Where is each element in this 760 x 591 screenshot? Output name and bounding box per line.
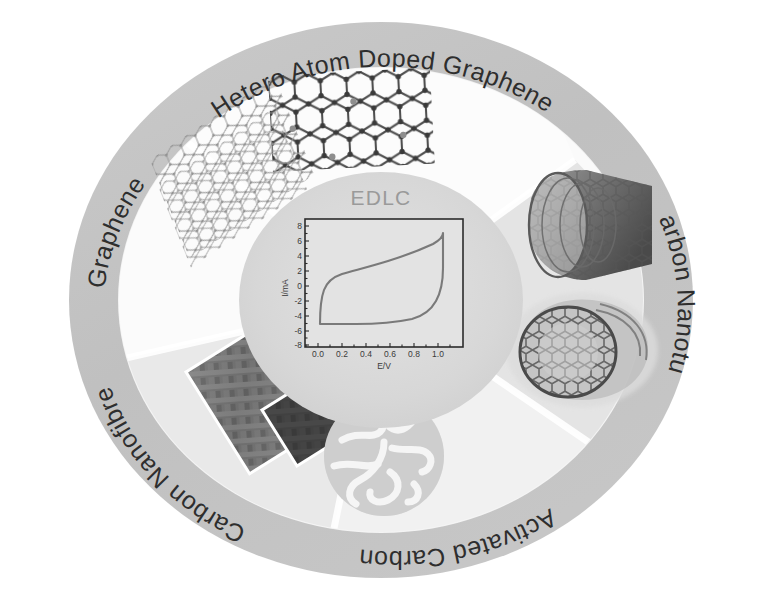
x-axis-label: E/V bbox=[377, 361, 391, 371]
svg-text:0.8: 0.8 bbox=[408, 349, 420, 359]
svg-text:-2: -2 bbox=[294, 296, 302, 306]
svg-text:-4: -4 bbox=[294, 311, 302, 321]
illustration-single-walled-carbon-nanotube bbox=[529, 170, 652, 280]
illustration-multi-walled-carbon-nanotube bbox=[506, 293, 658, 407]
figure-canvas: EDLC 86 42 0-2 -4-6 -8 bbox=[0, 0, 760, 591]
svg-text:1.0: 1.0 bbox=[432, 349, 444, 359]
center-title: EDLC bbox=[351, 186, 412, 209]
svg-text:0.4: 0.4 bbox=[360, 349, 372, 359]
svg-text:0: 0 bbox=[297, 281, 302, 291]
y-axis-label: I/mA bbox=[280, 279, 290, 297]
svg-text:6: 6 bbox=[297, 236, 302, 246]
svg-text:-6: -6 bbox=[294, 326, 302, 336]
svg-text:0.0: 0.0 bbox=[312, 349, 324, 359]
svg-text:0.6: 0.6 bbox=[384, 349, 396, 359]
carbon-materials-wheel: EDLC 86 42 0-2 -4-6 -8 bbox=[0, 0, 760, 591]
svg-text:4: 4 bbox=[297, 251, 302, 261]
svg-text:0.2: 0.2 bbox=[336, 349, 348, 359]
svg-text:-8: -8 bbox=[294, 340, 302, 350]
svg-text:2: 2 bbox=[297, 266, 302, 276]
svg-text:8: 8 bbox=[297, 221, 302, 231]
